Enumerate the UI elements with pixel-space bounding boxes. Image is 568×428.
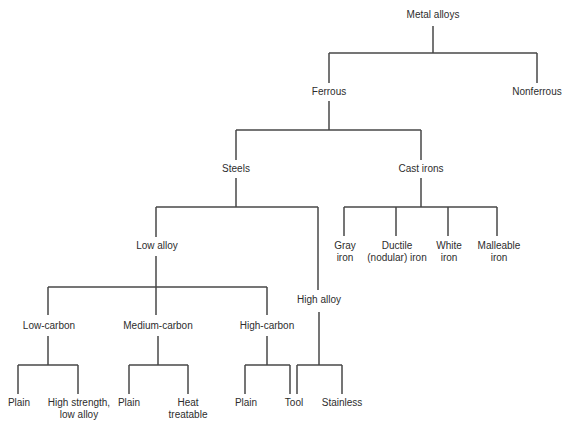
- edge-metal-alloys-children: [329, 26, 537, 83]
- node-malleable-iron: Malleable iron: [478, 240, 521, 264]
- edge-high-carbon-children: [245, 336, 290, 394]
- node-ductile-iron: Ductile (nodular) iron: [367, 240, 426, 264]
- node-stainless: Stainless: [322, 397, 363, 409]
- node-high-carbon-plain: Plain: [235, 397, 257, 409]
- node-ferrous: Ferrous: [312, 86, 346, 98]
- node-nonferrous: Nonferrous: [512, 86, 561, 98]
- edge-low-carbon-children: [18, 336, 78, 394]
- node-low-carbon: Low-carbon: [23, 320, 75, 332]
- edge-steels-children: [156, 178, 318, 290]
- node-hsla: High strength, low alloy: [48, 397, 110, 421]
- node-medium-carbon: Medium-carbon: [123, 320, 192, 332]
- node-tool: Tool: [285, 397, 303, 409]
- edge-low-alloy-children: [48, 256, 267, 315]
- node-low-carbon-plain: Plain: [8, 397, 30, 409]
- node-cast-irons: Cast irons: [398, 163, 443, 175]
- node-high-alloy: High alloy: [297, 294, 341, 306]
- node-heat-treatable: Heat treatable: [169, 397, 208, 421]
- tree-connectors: [0, 0, 568, 428]
- edge-medium-carbon-children: [129, 336, 188, 394]
- node-high-carbon: High-carbon: [240, 320, 294, 332]
- node-metal-alloys: Metal alloys: [407, 9, 460, 21]
- node-steels: Steels: [222, 163, 250, 175]
- edge-high-alloy-children: [297, 312, 342, 394]
- node-low-alloy: Low alloy: [136, 240, 178, 252]
- edge-ferrous-children: [236, 101, 421, 160]
- node-white-iron: White iron: [436, 240, 462, 264]
- node-medium-carbon-plain: Plain: [118, 397, 140, 409]
- node-gray-iron: Gray iron: [334, 240, 356, 264]
- edge-cast-irons-children: [344, 178, 497, 236]
